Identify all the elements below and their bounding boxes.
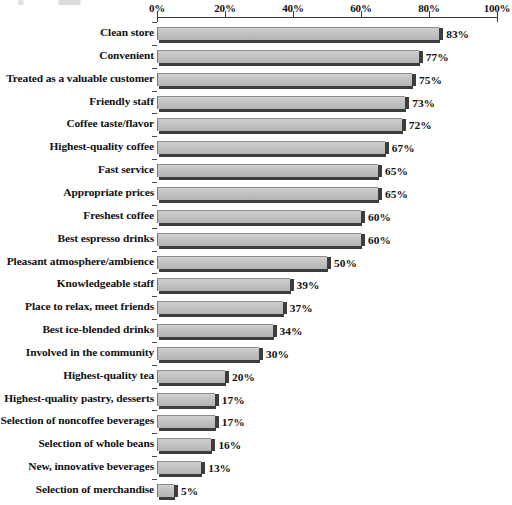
category-label: Treated as a valuable customer [6, 71, 154, 86]
bar [157, 164, 378, 179]
horizontal-bar-chart: 0%20%40%60%80%100% Clean store83%Conveni… [0, 0, 512, 505]
bar-value-label: 5% [181, 485, 198, 498]
bar-row: Fast service65% [0, 159, 512, 183]
bar [157, 370, 225, 385]
bar-value-label: 60% [368, 234, 391, 247]
bar-fill [157, 141, 385, 154]
category-label: Appropriate prices [63, 185, 154, 200]
y-axis-tick-mark [152, 410, 157, 411]
y-axis-tick-mark [152, 68, 157, 69]
category-label: Freshest coffee [83, 208, 154, 223]
x-axis-tick-mark [225, 11, 226, 17]
y-axis-tick-mark [152, 22, 157, 23]
bar-value-label: 67% [392, 142, 415, 155]
bar-value-label: 65% [385, 165, 408, 178]
bar-fill [157, 370, 225, 383]
y-axis-tick-mark [152, 319, 157, 320]
bar-fill [157, 96, 405, 109]
bar [157, 118, 402, 133]
y-axis-tick-mark [152, 113, 157, 114]
bar-fill [157, 210, 361, 223]
bar-row: Best espresso drinks60% [0, 228, 512, 252]
bar [157, 278, 290, 293]
bar-value-label: 37% [290, 302, 313, 315]
bar-fill [157, 164, 378, 177]
bar-row: Place to relax, meet friends37% [0, 296, 512, 320]
bar [157, 393, 215, 408]
category-label: Best espresso drinks [57, 231, 154, 246]
bar-value-label: 50% [334, 257, 357, 270]
y-axis-tick-mark [152, 136, 157, 137]
bar [157, 27, 439, 42]
x-axis-end-cap [157, 17, 158, 22]
category-label: Knowledgeable staff [57, 276, 154, 291]
bar [157, 50, 419, 65]
category-label: Pleasant atmosphere/ambience [7, 254, 154, 269]
bar-fill [157, 50, 419, 63]
category-label: Selection of whole beans [38, 436, 154, 451]
bar [157, 415, 215, 430]
category-label: Involved in the community [26, 345, 154, 360]
bar-fill [157, 27, 439, 40]
bar-fill [157, 301, 283, 314]
bar-value-label: 39% [297, 279, 320, 292]
bar [157, 484, 174, 499]
y-axis-tick-mark [152, 296, 157, 297]
bar-fill [157, 484, 174, 497]
bar [157, 233, 361, 248]
bar [157, 210, 361, 225]
x-axis-tick-labels: 0%20%40%60%80%100% [0, 2, 512, 16]
bar-row: Highest-quality tea20% [0, 365, 512, 389]
category-label: Highest-quality tea [63, 368, 154, 383]
bar-value-label: 20% [232, 371, 255, 384]
y-axis-tick-mark [152, 479, 157, 480]
category-label: Place to relax, meet friends [25, 299, 154, 314]
bar-fill [157, 118, 402, 131]
bar-value-label: 34% [280, 325, 303, 338]
category-label: New, innovative beverages [28, 459, 154, 474]
category-label: Coffee taste/flavor [66, 116, 154, 131]
bar-row: Selection of merchandise5% [0, 479, 512, 503]
category-label: Highest-quality coffee [50, 139, 154, 154]
y-axis-tick-mark [152, 159, 157, 160]
bar [157, 324, 273, 339]
category-label: Clean store [100, 25, 154, 40]
bar-value-label: 65% [385, 188, 408, 201]
category-label: Highest-quality pastry, desserts [4, 391, 154, 406]
bar [157, 461, 201, 476]
y-axis-tick-mark [152, 365, 157, 366]
y-axis-tick-mark [152, 388, 157, 389]
bar-row: Appropriate prices65% [0, 182, 512, 206]
y-axis-tick-mark [152, 182, 157, 183]
bar [157, 256, 327, 271]
bar-fill [157, 187, 378, 200]
bar-row: Selection of noncoffee beverages17% [0, 410, 512, 434]
y-axis-tick-mark [152, 91, 157, 92]
bar-value-label: 13% [208, 462, 231, 475]
bar-row: Highest-quality coffee67% [0, 136, 512, 160]
bar-value-label: 83% [446, 28, 469, 41]
bar [157, 141, 385, 156]
bar-value-label: 17% [222, 394, 245, 407]
bar-row: Involved in the community30% [0, 342, 512, 366]
bar [157, 301, 283, 316]
bar [157, 96, 405, 111]
y-axis-tick-mark [152, 251, 157, 252]
bar [157, 73, 412, 88]
bar-row: Pleasant atmosphere/ambience50% [0, 251, 512, 275]
bar [157, 347, 259, 362]
bar-rows: Clean store83%Convenient77%Treated as a … [0, 18, 512, 498]
bar-value-label: 17% [222, 416, 245, 429]
y-axis-tick-mark [152, 45, 157, 46]
category-label: Friendly staff [89, 94, 154, 109]
bar-row: Treated as a valuable customer75% [0, 68, 512, 92]
y-axis-tick-mark [152, 456, 157, 457]
category-label: Selection of merchandise [36, 482, 154, 497]
bar-fill [157, 256, 327, 269]
bar-value-label: 60% [368, 211, 391, 224]
x-axis-end-cap [497, 17, 498, 22]
x-axis-tick-mark [429, 11, 430, 17]
bar-value-label: 77% [426, 51, 449, 64]
bar-value-label: 16% [218, 439, 241, 452]
bar-row: Knowledgeable staff39% [0, 273, 512, 297]
